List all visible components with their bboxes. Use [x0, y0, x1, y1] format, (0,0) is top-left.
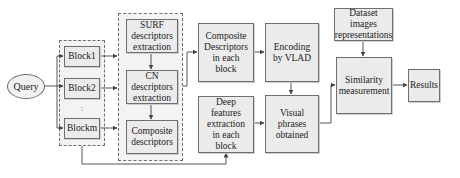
block-2-node: Block2 [64, 78, 100, 99]
surf-extraction-node: SURF descriptors extraction [126, 19, 178, 53]
query-node: Query [7, 74, 45, 99]
results-node: Results [408, 69, 440, 102]
flow-diagram: Query Block1 Block2 : Blockm SURF descri… [0, 0, 460, 178]
deep-features-node: Deep features extraction in each block [198, 96, 254, 153]
vlad-encoding-node: Encoding by VLAD [265, 23, 319, 82]
composite-descriptors-node: Composite descriptors [126, 120, 178, 154]
block-m-node: Blockm [64, 118, 100, 139]
block-1-node: Block1 [64, 46, 100, 67]
similarity-measurement-node: Similarity measurement [336, 57, 392, 114]
visual-phrases-node: Visual phrases obtained [265, 95, 319, 153]
blocks-ellipsis: : [77, 106, 87, 110]
composite-each-block-node: Composite Descriptors in each block [198, 23, 254, 82]
cn-extraction-node: CN descriptors extraction [126, 70, 178, 104]
dataset-representations-node: Dataset images representations [334, 8, 393, 41]
